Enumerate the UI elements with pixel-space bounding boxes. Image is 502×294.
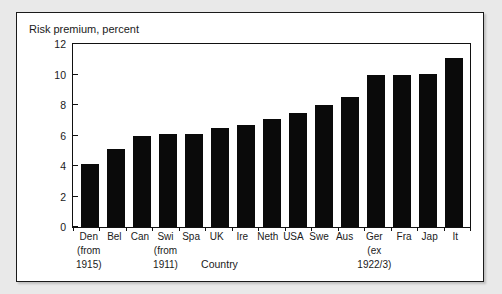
x-axis-tick-label-line: [391, 244, 417, 258]
x-axis-tick-label-line: [442, 244, 468, 258]
bar-slot: [363, 44, 389, 227]
bar-slot: [77, 44, 103, 227]
x-axis-tick-label-line: It: [442, 230, 468, 244]
figure-panel: Risk premium, percent 024681012 Den(from…: [16, 12, 484, 282]
bar-slot: [103, 44, 129, 227]
bar: [263, 119, 282, 227]
x-axis-tick-label-line: Can: [127, 230, 153, 244]
x-axis-tick-label-line: Swe: [306, 230, 332, 244]
y-axis-tick-label: 4: [60, 160, 66, 172]
x-axis-tick-label-line: [306, 244, 332, 258]
x-axis-tick-label-line: Spa: [178, 230, 204, 244]
x-axis-tick-label-line: Fra: [391, 230, 417, 244]
x-axis-tick-label-line: Aus: [332, 230, 358, 244]
x-axis-tick-label-line: (from: [76, 244, 102, 258]
x-axis-tick-label-line: UK: [204, 230, 230, 244]
x-axis-tick-label-line: (ex: [357, 244, 391, 258]
x-axis-tick-label-line: [102, 244, 128, 258]
plot-area: 024681012: [72, 43, 471, 228]
bar-series: [73, 44, 470, 227]
bar-slot: [415, 44, 441, 227]
bar: [315, 105, 334, 227]
bar: [419, 74, 438, 227]
y-axis-tick-label: 10: [54, 69, 66, 81]
bar-slot: [233, 44, 259, 227]
bar-slot: [207, 44, 233, 227]
bar-slot: [337, 44, 363, 227]
bar-slot: [181, 44, 207, 227]
y-axis-tick-label: 6: [60, 130, 66, 142]
x-axis-tick-label-line: Ire: [229, 230, 255, 244]
bar: [445, 58, 464, 227]
x-axis-tick-label-line: [255, 244, 281, 258]
x-axis-title-text: Country: [201, 258, 238, 270]
y-axis-tick-label: 8: [60, 99, 66, 111]
bar: [185, 134, 204, 227]
x-axis-tick-label-line: [127, 244, 153, 258]
bar-slot: [311, 44, 337, 227]
bar: [133, 136, 152, 228]
x-axis-tick-label-line: [281, 244, 307, 258]
x-axis-tick-label-line: [204, 244, 230, 258]
bar-slot: [155, 44, 181, 227]
x-axis-title: Country: [72, 258, 471, 270]
bar-slot: [441, 44, 467, 227]
bar: [367, 75, 386, 228]
x-axis-tick-label-line: Swi: [153, 230, 179, 244]
bar-slot: [129, 44, 155, 227]
y-axis-tick-label: 2: [60, 191, 66, 203]
bar: [159, 134, 178, 227]
bar: [393, 75, 412, 228]
y-axis-tick-label: 12: [54, 38, 66, 50]
bar-slot: [285, 44, 311, 227]
bar-slot: [259, 44, 285, 227]
x-axis-tick-label-line: Neth: [255, 230, 281, 244]
bar: [289, 113, 308, 227]
y-axis-tick-label: 0: [60, 221, 66, 233]
x-axis-tick-label-line: Den: [76, 230, 102, 244]
x-axis-tick-label-line: (from: [153, 244, 179, 258]
x-axis-tick-label-line: Bel: [102, 230, 128, 244]
bar: [211, 128, 230, 227]
x-axis-tick-label-line: [178, 244, 204, 258]
x-axis-tick-label-line: [332, 244, 358, 258]
bar-slot: [389, 44, 415, 227]
bar: [237, 125, 256, 227]
x-axis-tick-label-line: USA: [281, 230, 307, 244]
x-axis-tick-label-line: [417, 244, 443, 258]
chart-title: Risk premium, percent: [29, 23, 139, 35]
x-axis-tick-label-line: [229, 244, 255, 258]
bar: [341, 97, 360, 227]
bar: [107, 149, 126, 227]
x-axis-tick-label-line: Ger: [357, 230, 391, 244]
x-axis-tick-label-line: Jap: [417, 230, 443, 244]
bar: [81, 164, 100, 227]
